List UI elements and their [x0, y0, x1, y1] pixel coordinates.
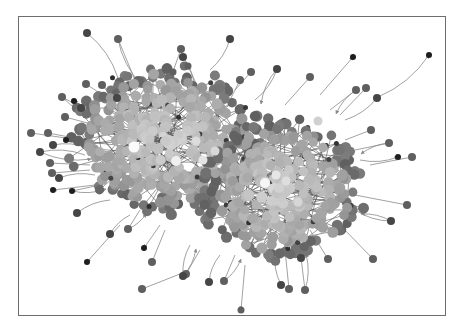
graph-node	[185, 63, 192, 70]
graph-node	[58, 93, 66, 101]
graph-node	[274, 158, 284, 168]
graph-node	[106, 230, 114, 238]
graph-node	[348, 188, 357, 197]
graph-node	[301, 286, 309, 294]
graph-node	[210, 70, 220, 80]
graph-node	[294, 180, 304, 190]
highlight-node	[129, 142, 140, 153]
graph-node	[64, 153, 74, 163]
graph-node	[84, 142, 94, 152]
graph-node	[327, 227, 338, 238]
graph-node	[200, 168, 211, 179]
graph-node	[199, 200, 209, 210]
graph-node	[211, 169, 220, 178]
graph-node	[107, 101, 116, 110]
graph-node	[250, 111, 260, 121]
graph-node	[259, 129, 269, 139]
graph-node	[95, 185, 104, 194]
graph-node	[205, 278, 213, 286]
graph-node	[395, 154, 401, 160]
graph-node	[318, 143, 328, 153]
graph-node	[55, 174, 63, 182]
graph-node	[229, 223, 239, 233]
graph-node	[321, 201, 330, 210]
graph-node	[100, 126, 110, 136]
graph-node	[387, 217, 395, 225]
graph-node	[160, 136, 170, 146]
graph-node	[325, 167, 336, 178]
graph-node	[277, 281, 285, 289]
graph-node	[87, 125, 97, 135]
graph-node	[243, 105, 248, 110]
graph-node	[306, 73, 314, 81]
graph-node	[71, 98, 77, 104]
graph-node	[295, 115, 304, 124]
graph-node	[206, 187, 216, 197]
graph-node	[285, 285, 293, 293]
graph-node	[90, 104, 101, 115]
highlight-node	[192, 137, 201, 146]
graph-node	[385, 139, 393, 147]
graph-node	[143, 85, 152, 94]
graph-node	[426, 52, 432, 58]
graph-node	[147, 204, 152, 209]
graph-node	[273, 65, 281, 73]
graph-node	[145, 134, 154, 143]
graph-node	[350, 54, 356, 60]
graph-node	[297, 254, 305, 262]
graph-node	[238, 307, 245, 314]
graph-node	[148, 69, 159, 80]
graph-node	[324, 255, 332, 263]
graph-node	[69, 188, 75, 194]
graph-node	[247, 213, 258, 224]
graph-node	[186, 193, 196, 203]
graph-node	[212, 98, 223, 109]
graph-node	[98, 81, 106, 89]
graph-node	[138, 285, 146, 293]
graph-node	[118, 82, 129, 93]
graph-node	[403, 201, 411, 209]
graph-node	[123, 72, 132, 81]
graph-node	[185, 148, 194, 157]
graph-node	[95, 147, 104, 156]
graph-node	[240, 205, 249, 214]
graph-node	[362, 84, 370, 92]
graph-node	[274, 183, 284, 193]
graph-node	[241, 240, 251, 250]
graph-node	[129, 79, 139, 89]
graph-node	[165, 149, 174, 158]
graph-node	[155, 197, 166, 208]
graph-node	[275, 248, 285, 258]
graph-node	[369, 255, 377, 263]
highlight-node	[211, 147, 220, 156]
graph-node	[243, 173, 253, 183]
graph-node	[148, 258, 156, 266]
graph-node	[218, 225, 227, 234]
graph-node	[110, 75, 115, 80]
graph-node	[116, 122, 125, 131]
graph-node	[44, 129, 52, 137]
graph-node	[141, 245, 147, 251]
graph-node	[268, 134, 278, 144]
highlight-node	[260, 178, 270, 188]
highlight-node	[282, 177, 291, 186]
graph-node	[84, 259, 90, 265]
graph-node	[46, 159, 54, 167]
graph-node	[177, 45, 185, 53]
graph-node	[408, 153, 416, 161]
graph-node	[337, 170, 348, 181]
graph-node	[256, 242, 267, 253]
graph-node	[312, 214, 321, 223]
graph-node	[170, 69, 177, 76]
graph-node	[132, 91, 141, 100]
graph-node	[226, 35, 234, 43]
graph-node	[209, 131, 218, 140]
graph-node	[50, 187, 56, 193]
graph-node	[228, 153, 238, 163]
highlight-node	[199, 156, 208, 165]
graph-node	[150, 112, 159, 121]
graph-node	[36, 148, 44, 156]
graph-node	[49, 141, 57, 149]
graph-node	[113, 94, 121, 102]
highlight-node	[272, 171, 281, 180]
